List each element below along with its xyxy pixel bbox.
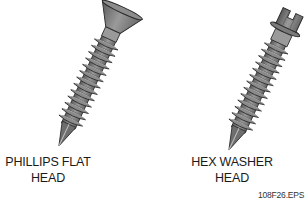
label-line: HEAD xyxy=(184,170,280,186)
label-line: HEX WASHER xyxy=(184,154,280,170)
hex-washer-head-screw-icon xyxy=(214,5,307,156)
label-line: PHILLIPS FLAT xyxy=(0,154,96,170)
hex-washer-head-label: HEX WASHER HEAD xyxy=(184,154,280,186)
figure-code: 108F26.EPS xyxy=(258,190,304,200)
phillips-flat-head-label: PHILLIPS FLAT HEAD xyxy=(0,154,96,186)
phillips-flat-head-screw-icon xyxy=(39,0,144,155)
label-line: HEAD xyxy=(0,170,96,186)
